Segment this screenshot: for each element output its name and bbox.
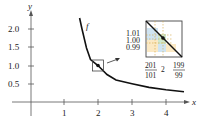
inset-magnified-view bbox=[146, 21, 182, 57]
y-tick-1.5: 1.5 bbox=[8, 42, 20, 52]
x-tick-3: 3 bbox=[130, 108, 135, 118]
inset-x-tick-2: 2 bbox=[161, 65, 165, 74]
inset-x-tick-201: 201 bbox=[145, 61, 157, 70]
inset-x-tick-199: 199 bbox=[173, 61, 185, 70]
inset-y-tick-0.99: 0.99 bbox=[126, 43, 140, 52]
y-tick-2.0: 2.0 bbox=[8, 24, 20, 34]
y-tick-0.5: 0.5 bbox=[8, 79, 20, 89]
chart: y x 2.0 1.5 1.0 0.5 1 2 3 4 f 1.01 1.00 … bbox=[0, 0, 209, 126]
x-tick-4: 4 bbox=[164, 108, 169, 118]
x-axis-arrow-icon bbox=[184, 100, 190, 104]
y-tick-1.0: 1.0 bbox=[8, 61, 20, 71]
point-2-1 bbox=[96, 64, 100, 68]
x-tick-1: 1 bbox=[62, 108, 67, 118]
x-axis-label: x bbox=[191, 97, 196, 107]
x-tick-2: 2 bbox=[96, 108, 101, 118]
function-label-f: f bbox=[86, 21, 90, 31]
inset-x-tick-101: 101 bbox=[145, 71, 157, 80]
y-axis-label: y bbox=[27, 1, 32, 11]
inset-x-tick-99: 99 bbox=[175, 71, 183, 80]
